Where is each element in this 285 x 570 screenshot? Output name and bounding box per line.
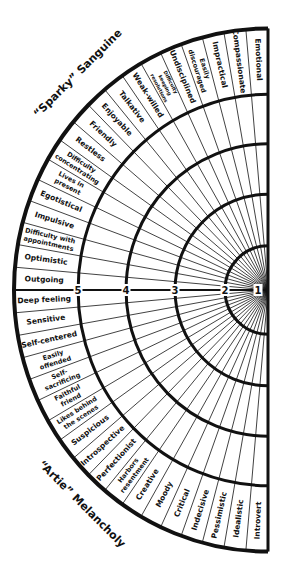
segment-label-line: Moody — [154, 480, 175, 509]
segment-label: Difficulty withappointments — [23, 227, 77, 254]
melancholy-title: “Artie” Melancholy — [36, 458, 128, 550]
segment-divider — [38, 179, 268, 290]
segment-label: Outgoing — [24, 274, 63, 285]
segment-divider — [161, 290, 268, 527]
segment-label-line: Emotional — [253, 38, 264, 81]
segment-label: Introvert — [252, 501, 263, 540]
segment-label-line: Indecisive — [190, 488, 211, 531]
segment-label-line: Outgoing — [24, 274, 63, 285]
segment-label-line: Impulsive — [34, 210, 76, 231]
segment-label: Self-centered — [20, 329, 78, 350]
segment-label: Sensitive — [26, 313, 66, 327]
segment-label: Emotional — [253, 38, 264, 81]
ring-number-2: 2 — [222, 285, 229, 296]
segment-label: Pessimistic — [210, 491, 229, 539]
ring-number-1: 1 — [255, 285, 262, 296]
temperament-wheel: EmotionalCompassionateImpracticalEasilyd… — [0, 0, 285, 570]
segment-label-line: Self-centered — [20, 329, 78, 350]
segment-label-line: Pessimistic — [210, 491, 229, 539]
ring-number-3: 3 — [172, 285, 179, 296]
segment-label: Deep feeling — [17, 294, 71, 305]
segment-label: Optimistic — [24, 252, 68, 267]
segment-label: Moody — [154, 480, 175, 509]
segment-label-line: Introvert — [252, 501, 263, 540]
segment-label-line: Deep feeling — [17, 294, 71, 305]
ring-number-5: 5 — [75, 285, 82, 296]
segment-divider — [38, 290, 268, 401]
segment-label: Idealistic — [231, 499, 245, 538]
segment-label: Impulsive — [34, 210, 76, 231]
segment-label-line: Sensitive — [26, 313, 66, 327]
ring-number-4: 4 — [123, 285, 130, 296]
segment-label-line: Idealistic — [231, 499, 245, 538]
segment-label-line: Optimistic — [24, 252, 68, 267]
segment-label: Easilyoffended — [36, 347, 72, 372]
segment-label: Indecisive — [190, 488, 211, 531]
